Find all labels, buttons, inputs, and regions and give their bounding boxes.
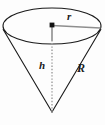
cone-radius-line: [52, 26, 101, 29]
cone-diagram: r h R: [0, 0, 105, 125]
cone-figure-svg: [0, 0, 105, 125]
slant-height-label-R: R: [77, 62, 85, 74]
radius-label-r: r: [67, 11, 71, 22]
cone-center-point-dot: [50, 23, 55, 28]
height-label-h: h: [39, 60, 45, 71]
